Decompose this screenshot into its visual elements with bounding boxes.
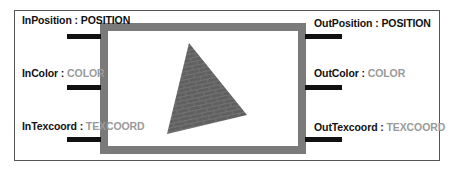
output-semantic: COLOR [368, 67, 405, 79]
output-connector-color[interactable] [305, 85, 342, 90]
label-separator: : [72, 14, 81, 26]
input-name: InColor [22, 67, 58, 79]
input-name: InTexcoord [22, 120, 77, 132]
output-label-texcoord: OutTexcoord : TEXCOORD [314, 121, 445, 133]
input-semantic: POSITION [81, 14, 130, 26]
input-semantic: COLOR [67, 67, 104, 79]
output-connector-position[interactable] [305, 34, 342, 39]
input-label-color: InColor : COLOR [22, 67, 105, 79]
output-connector-texcoord[interactable] [305, 137, 342, 142]
input-label-position: InPosition : POSITION [22, 14, 130, 26]
input-connector-texcoord[interactable] [67, 137, 101, 142]
output-semantic: TEXCOORD [387, 121, 446, 133]
input-connector-color[interactable] [67, 85, 101, 90]
output-name: OutPosition [314, 17, 372, 29]
label-separator: : [77, 120, 86, 132]
input-name: InPosition [22, 14, 72, 26]
output-name: OutColor [314, 67, 359, 79]
label-separator: : [377, 121, 386, 133]
output-label-position: OutPosition : POSITION [314, 17, 431, 29]
input-semantic: TEXCOORD [86, 120, 145, 132]
output-label-color: OutColor : COLOR [314, 67, 405, 79]
output-semantic: POSITION [381, 17, 430, 29]
output-name: OutTexcoord [314, 121, 377, 133]
label-separator: : [359, 67, 368, 79]
label-separator: : [58, 67, 67, 79]
input-connector-position[interactable] [67, 34, 101, 39]
input-label-texcoord: InTexcoord : TEXCOORD [22, 120, 145, 132]
